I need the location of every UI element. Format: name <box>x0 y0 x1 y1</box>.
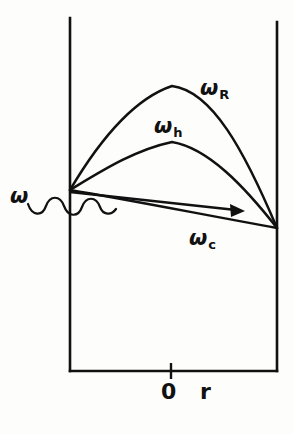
omega-R-subscript: R <box>219 87 229 102</box>
label-omega-R: ωR <box>200 78 229 101</box>
diagram-svg <box>0 0 293 434</box>
omega-c-subscript: c <box>208 237 216 252</box>
omega-h-subscript: h <box>173 125 182 140</box>
x-axis-tick-label: 0 <box>161 381 176 403</box>
omega-incident-symbol: ω <box>10 184 28 208</box>
arrow-right-icon <box>230 204 245 217</box>
x-axis-label: r <box>200 381 211 403</box>
omega-R-symbol: ω <box>200 76 218 100</box>
propagation-arrow <box>70 192 245 217</box>
omega-h-symbol: ω <box>154 114 172 138</box>
wave-icon <box>28 198 116 215</box>
label-omega-c: ωc <box>189 228 216 251</box>
figure-root: ωR ωh ωc ω 0 r <box>0 0 293 434</box>
omega-c-symbol: ω <box>189 226 207 250</box>
label-omega-incident: ω <box>10 186 28 207</box>
label-omega-h: ωh <box>154 116 183 139</box>
curve-omega-h <box>70 142 277 228</box>
